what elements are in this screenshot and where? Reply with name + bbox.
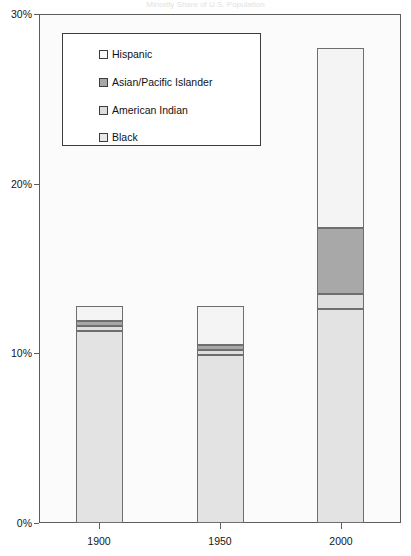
- chart-root: Minority Share of U.S. Population 0%10%2…: [0, 0, 411, 556]
- y-tick-label: 30%: [11, 8, 32, 20]
- y-tick-label: 20%: [11, 178, 32, 190]
- bar-segment-1900-black: [76, 331, 123, 523]
- x-tick-label: 1900: [87, 535, 110, 547]
- bar-segment-1950-asian-pacific-islander: [197, 345, 244, 350]
- bar-segment-1900-hispanic: [76, 306, 123, 321]
- bar-segment-1900-asian-pacific-islander: [76, 321, 123, 326]
- bar-1950: [197, 306, 244, 523]
- bar-segment-2000-american-indian: [317, 294, 364, 309]
- legend-item-hispanic[interactable]: Hispanic: [99, 48, 152, 60]
- x-tick-label: 2000: [329, 535, 352, 547]
- legend-item-american-indian[interactable]: American Indian: [99, 104, 188, 116]
- bar-segment-2000-asian-pacific-islander: [317, 228, 364, 294]
- y-tick-label: 0%: [17, 517, 32, 529]
- bar-segment-2000-black: [317, 309, 364, 523]
- chart-title: Minority Share of U.S. Population: [0, 0, 411, 9]
- legend-swatch-icon: [99, 50, 108, 59]
- x-tick-label: 1950: [208, 535, 231, 547]
- legend-swatch-icon: [99, 106, 108, 115]
- bar-2000: [317, 48, 364, 523]
- legend-swatch-icon: [99, 78, 108, 87]
- y-tick-mark: [34, 353, 39, 354]
- bar-1900: [76, 306, 123, 523]
- y-tick-mark: [34, 523, 39, 524]
- bar-segment-1950-hispanic: [197, 306, 244, 345]
- x-tick-mark: [220, 523, 221, 529]
- y-tick-label: 10%: [11, 347, 32, 359]
- y-tick-mark: [34, 184, 39, 185]
- legend-item-asian-pacific-islander[interactable]: Asian/Pacific Islander: [99, 76, 212, 88]
- legend-label: Asian/Pacific Islander: [112, 77, 212, 88]
- bar-segment-2000-hispanic: [317, 48, 364, 228]
- legend-label: Black: [112, 132, 138, 143]
- bar-segment-1950-black: [197, 355, 244, 523]
- x-tick-mark: [341, 523, 342, 529]
- chart-legend: HispanicAsian/Pacific IslanderAmerican I…: [62, 33, 261, 146]
- bar-segment-1950-american-indian: [197, 350, 244, 355]
- legend-item-black[interactable]: Black: [99, 131, 138, 143]
- bar-segment-1900-american-indian: [76, 326, 123, 331]
- legend-label: American Indian: [112, 105, 188, 116]
- y-tick-mark: [34, 14, 39, 15]
- x-tick-mark: [99, 523, 100, 529]
- legend-label: Hispanic: [112, 49, 152, 60]
- legend-swatch-icon: [99, 133, 108, 142]
